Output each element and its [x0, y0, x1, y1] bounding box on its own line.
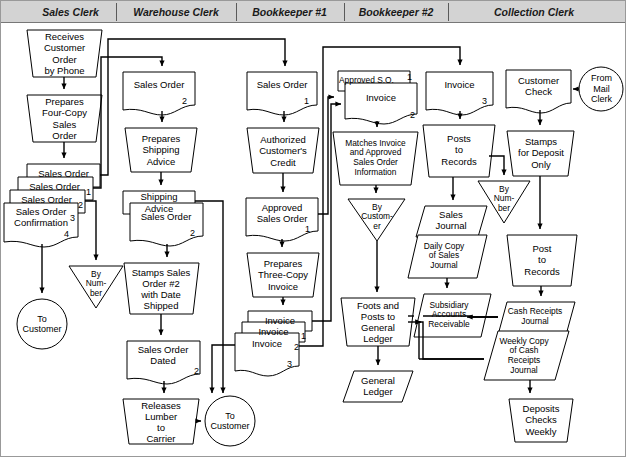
shape-wh-so-2b [130, 203, 203, 246]
link-crj-left [423, 316, 498, 317]
label-so-1: Sales Order [27, 164, 100, 184]
copy-number-invoice-1: 1 [288, 332, 306, 341]
flowchart-canvas [1, 1, 626, 457]
label-to-customer-wh: To Customer [205, 409, 255, 433]
shape-bk1-so-1 [247, 72, 317, 115]
label-wh-so-2: Sales Order [123, 75, 195, 95]
label-posts-to-records: Posts to Records [423, 127, 495, 173]
shape-by-number-sales [69, 266, 123, 308]
column-header-bookkeeper-1: Bookkeeper #1 [237, 1, 342, 23]
label-so-2: Sales Order [18, 177, 91, 197]
label-weekly-copy-crj: Weekly Copy of Cash Receipts Journal [488, 334, 560, 378]
label-by-customer: By Custom- er [353, 201, 401, 233]
shape-so-confirmation-4 [4, 203, 78, 247]
label-invoice-3: Invoice [235, 334, 299, 353]
shape-approved-so-1 [338, 71, 410, 91]
copy-number-so-1: 1 [73, 188, 91, 197]
shape-approved-sales-order [246, 198, 318, 241]
copy-number-wh-so-2: 2 [169, 97, 187, 106]
column-header-bookkeeper-2: Bookkeeper #2 [345, 1, 447, 23]
shape-sales-journal [416, 206, 487, 237]
shape-daily-copy-sales-journal [408, 235, 487, 278]
copy-number-approved-so-1: 1 [402, 73, 412, 82]
label-wh-so-2b: Sales Order [130, 207, 202, 227]
label-prepares-three-copy-invoice: Prepares Three-Copy Invoice [245, 254, 321, 296]
shape-subsidiary-ar [414, 294, 491, 337]
shape-bk2-invoice-2 [345, 83, 417, 124]
label-stamps-for-deposit: Stamps for Deposit Only [505, 133, 577, 173]
label-by-number-cc: By Num- ber [481, 183, 527, 215]
label-subsidiary-ar: Subsidiary Accounts Receivable [414, 298, 484, 332]
label-cash-receipts-journal: Cash Receipts Journal [499, 304, 571, 330]
shape-invoice-2 [242, 322, 305, 342]
label-sales-order-dated: Sales Order Dated [127, 343, 199, 367]
link-shipping-advice-out [195, 201, 223, 393]
label-customer-check: Customer Check [506, 73, 571, 99]
shape-by-customer [348, 199, 405, 241]
shape-wh-so-2 [123, 72, 195, 115]
link-posts-to-bynumber [489, 156, 504, 175]
column-header-collection-clerk: Collection Clerk [449, 1, 619, 23]
shape-releases-lumber [123, 399, 199, 444]
shape-receives-order [27, 30, 102, 77]
shape-matches-invoice [333, 132, 418, 185]
shape-customer-check [506, 70, 571, 113]
copy-number-so-2: 2 [65, 201, 83, 210]
label-approved-sales-order: Approved Sales Order [246, 200, 318, 226]
link-weekly-to-foots [419, 322, 421, 359]
link-so1-to-bookkeeper1 [100, 39, 285, 175]
shape-stamps-sales-order [124, 263, 199, 314]
label-cc-invoice-3: Invoice [426, 75, 493, 95]
link-so3-to-by-number [85, 201, 96, 260]
shape-prepares-four-copy [27, 95, 102, 142]
label-so-confirmation-4: Sales Order Confirmation [4, 204, 78, 230]
copy-number-bk1-so-1: 1 [291, 97, 309, 106]
shape-invoice-1 [248, 311, 312, 331]
link-invoice3-to-collection [299, 47, 460, 346]
label-matches-invoice: Matches Invoice and Approved Sales Order… [332, 133, 419, 183]
label-receives-order: Receives Customer Order by Phone [27, 30, 102, 77]
label-general-ledger: General Ledger [348, 372, 408, 400]
link-so2-to-warehouse [93, 57, 162, 188]
shape-weekly-copy-crj [484, 331, 569, 380]
shape-foots-and-posts [341, 298, 415, 346]
label-sales-journal: Sales Journal [417, 207, 485, 233]
copy-number-so-3: 3 [57, 214, 75, 223]
label-bk1-so-1: Sales Order [247, 75, 317, 95]
shape-general-ledger [343, 371, 413, 402]
shape-prepares-shipping-advice [125, 128, 197, 172]
shape-authorized-credit [247, 128, 319, 173]
link-weekly-feed [421, 322, 484, 359]
label-by-number-sales: By Num- ber [73, 268, 119, 300]
label-bk2-invoice-2: Invoice [345, 88, 417, 108]
label-prepares-shipping-advice: Prepares Shipping Advice [125, 129, 197, 171]
copy-number-cc-invoice-3: 3 [469, 97, 487, 106]
shape-by-number-cc [478, 181, 530, 223]
copy-number-invoice-3: 3 [274, 360, 292, 369]
label-shipping-advice: Shipping Advice [123, 191, 195, 214]
label-from-mail-clerk: From Mail Clerk [579, 72, 624, 106]
column-header-warehouse-clerk: Warehouse Clerk [117, 1, 235, 23]
shape-posts-to-records [423, 125, 495, 177]
shape-invoice-3 [235, 333, 299, 376]
shape-so-1 [27, 164, 100, 187]
shape-deposits-checks-weekly [509, 399, 573, 442]
label-foots-and-posts: Foots and Posts to General Ledger [341, 300, 415, 344]
label-releases-lumber: Releases Lumber to Carrier [123, 400, 199, 444]
link-approvedso-to-bk2 [318, 97, 334, 214]
label-deposits-checks-weekly: Deposits Checks Weekly [509, 401, 573, 439]
label-stamps-sales-order: Stamps Sales Order #2 with Date Shipped [121, 265, 201, 313]
shape-from-mail-clerk [579, 67, 623, 111]
link-invoice1-to-bk2 [312, 104, 341, 321]
copy-number-sales-order-dated: 2 [181, 367, 199, 376]
column-header-sales-clerk: Sales Clerk [23, 1, 118, 23]
column-header-band: Sales Clerk Warehouse Clerk Bookkeeper #… [1, 1, 626, 23]
shape-so-2 [18, 177, 93, 200]
label-to-customer-sales: To Customer [17, 312, 67, 336]
label-daily-copy-sales-journal: Daily Copy of Sales Journal [409, 239, 479, 273]
copy-number-approved-sales-order: 1 [292, 225, 310, 234]
shape-post-to-records [507, 235, 577, 286]
link-invoice2-to-customer [212, 345, 235, 393]
copy-number-invoice-2: 2 [281, 343, 299, 352]
shape-to-customer-wh [205, 396, 255, 446]
